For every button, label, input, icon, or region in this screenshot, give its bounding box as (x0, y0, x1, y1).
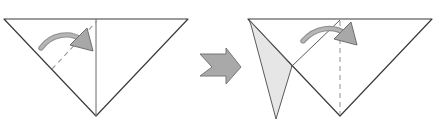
origami-diagram (0, 0, 448, 129)
origami-figure-svg (0, 0, 448, 129)
